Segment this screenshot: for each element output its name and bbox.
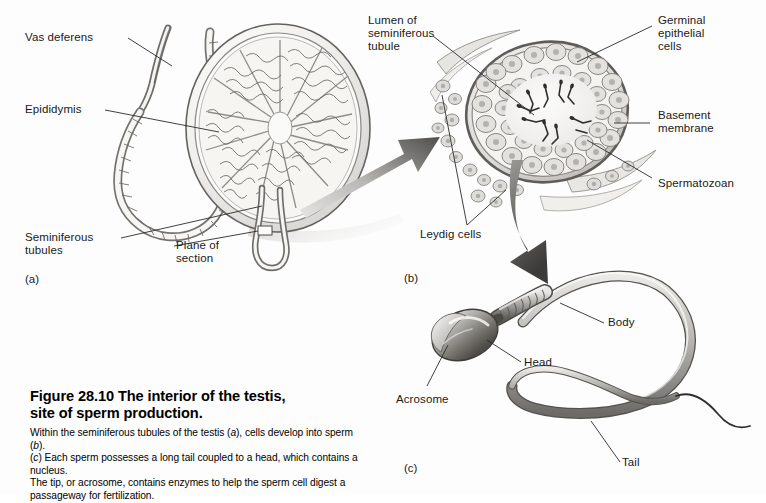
panel-a-artwork	[118, 24, 404, 268]
figure-caption-body: Within the seminiferous tubules of the t…	[30, 427, 370, 503]
label-acrosome: Acrosome	[396, 393, 449, 407]
caption-line-2: (c) Each sperm possesses a long tail cou…	[30, 452, 370, 477]
label-vas-deferens: Vas deferens	[25, 31, 93, 45]
figure-caption: Figure 28.10 The interior of the testis,…	[30, 388, 370, 503]
panel-c-artwork	[424, 273, 750, 428]
leader-germinal-epithelial-cells	[577, 26, 652, 62]
label-leydig-cells: Leydig cells	[420, 228, 481, 242]
panel-a-mark: (a)	[25, 273, 39, 285]
label-spermatozoan: Spermatozoan	[658, 177, 734, 191]
label-tail: Tail	[622, 456, 640, 470]
panel-b-artwork	[430, 30, 656, 211]
leader-tail	[591, 421, 620, 462]
caption-line-4: passageway for fertilization.	[30, 490, 370, 503]
caption-line-1: Within the seminiferous tubules of the t…	[30, 427, 370, 452]
panel-c-mark: (c)	[404, 462, 417, 474]
leader-body	[560, 303, 604, 323]
panel-b-mark: (b)	[404, 272, 418, 284]
label-epididymis: Epididymis	[25, 103, 82, 117]
caption-line-3: The tip, or acrosome, contains enzymes t…	[30, 477, 370, 490]
figure-title: Figure 28.10 The interior of the testis,…	[30, 388, 370, 422]
leader-head	[487, 340, 521, 362]
label-body: Body	[608, 316, 635, 330]
label-head: Head	[524, 356, 552, 370]
